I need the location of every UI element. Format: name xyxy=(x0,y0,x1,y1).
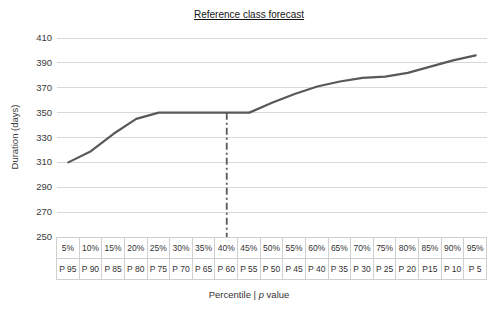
x-tick-p-value: P 25 xyxy=(374,259,397,280)
y-tick-label: 410 xyxy=(0,32,52,44)
x-tick-p-value: P 95 xyxy=(57,259,80,280)
x-tick-p-value: P 20 xyxy=(396,259,419,280)
x-tick-p-value: P 30 xyxy=(351,259,374,280)
x-tick-percentile: 70% xyxy=(351,238,374,259)
x-tick-p-value: P 40 xyxy=(306,259,329,280)
x-tick-percentile: 80% xyxy=(396,238,419,259)
x-tick-percentile: 15% xyxy=(102,238,125,259)
x-tick-p-value: P 80 xyxy=(125,259,148,280)
x-axis-label-table: 5%10%15%20%25%30%35%40%45%50%55%60%65%70… xyxy=(56,237,487,280)
y-tick-label: 330 xyxy=(0,132,52,144)
y-tick-label: 250 xyxy=(0,231,52,243)
x-tick-percentile: 50% xyxy=(261,238,284,259)
x-tick-percentile: 5% xyxy=(57,238,80,259)
x-tick-percentile: 95% xyxy=(464,238,487,259)
x-tick-p-value: P 90 xyxy=(80,259,103,280)
x-axis-title: Percentile | p value xyxy=(0,289,498,300)
x-axis-title-suffix: value xyxy=(264,289,289,300)
x-tick-p-value: P 75 xyxy=(148,259,171,280)
x-tick-p-value: P 60 xyxy=(215,259,238,280)
x-tick-p-value: P 35 xyxy=(329,259,352,280)
forecast-line-series xyxy=(68,55,475,162)
x-tick-percentile: 65% xyxy=(329,238,352,259)
x-tick-percentile: 10% xyxy=(80,238,103,259)
y-tick-label: 270 xyxy=(0,206,52,218)
x-tick-percentile: 20% xyxy=(125,238,148,259)
x-tick-p-value: P 65 xyxy=(193,259,216,280)
x-tick-p-value: P 70 xyxy=(170,259,193,280)
y-tick-label: 290 xyxy=(0,181,52,193)
x-tick-percentile: 45% xyxy=(238,238,261,259)
x-tick-percentile: 85% xyxy=(419,238,442,259)
x-tick-p-value: P15 xyxy=(419,259,442,280)
x-tick-percentile: 35% xyxy=(193,238,216,259)
x-tick-p-value: P 5 xyxy=(464,259,487,280)
x-tick-p-value: P 10 xyxy=(442,259,465,280)
x-tick-percentile: 40% xyxy=(215,238,238,259)
x-tick-percentile: 60% xyxy=(306,238,329,259)
x-tick-percentile: 25% xyxy=(148,238,171,259)
x-axis-title-prefix: Percentile | xyxy=(209,289,259,300)
x-tick-p-value: P 45 xyxy=(283,259,306,280)
x-tick-percentile: 75% xyxy=(374,238,397,259)
x-tick-percentile: 55% xyxy=(283,238,306,259)
reference-class-forecast-chart: Reference class forecast Duration (days)… xyxy=(0,0,498,315)
y-tick-label: 350 xyxy=(0,107,52,119)
y-tick-label: 310 xyxy=(0,156,52,168)
y-tick-label: 390 xyxy=(0,57,52,69)
x-tick-p-value: P 55 xyxy=(238,259,261,280)
x-tick-p-value: P 50 xyxy=(261,259,284,280)
x-tick-percentile: 30% xyxy=(170,238,193,259)
x-tick-p-value: P 85 xyxy=(102,259,125,280)
x-tick-percentile: 90% xyxy=(442,238,465,259)
y-tick-label: 370 xyxy=(0,82,52,94)
